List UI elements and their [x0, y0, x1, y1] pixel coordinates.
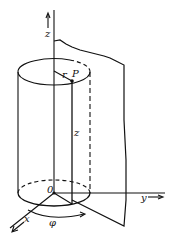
origin-label: 0: [47, 184, 54, 195]
z-axis-label: z: [44, 28, 51, 39]
point-label: P: [71, 68, 79, 79]
x-arrow-icon: [13, 222, 24, 231]
x-axis: [10, 193, 54, 228]
cylindrical-coordinates-diagram: z r P z 0 y x φ: [0, 0, 176, 244]
x-axis-label: x: [24, 213, 30, 224]
point-p-dot: [70, 79, 74, 83]
y-axis-label: y: [140, 192, 147, 203]
base-radius: [54, 193, 72, 204]
z-height-label: z: [73, 127, 80, 138]
phi-label: φ: [49, 217, 56, 228]
